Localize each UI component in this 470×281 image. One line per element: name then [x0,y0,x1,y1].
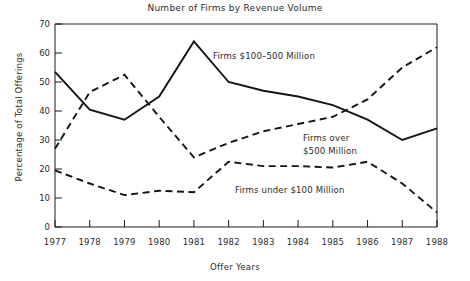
series-label-over-500-million-line2: $500 Million [303,146,357,156]
y-tick-label: 20 [39,164,50,174]
x-tick-label: 1983 [252,237,274,247]
x-tick-label: 1982 [217,237,239,247]
y-tick-label: 50 [39,77,50,87]
x-tick-label: 1984 [287,237,309,247]
y-tick-label: 60 [39,48,50,58]
x-tick-label: 1979 [113,237,135,247]
x-tick-label: 1980 [148,237,170,247]
data-line-series-2 [55,47,437,157]
series-label-over-500-million-line1: Firms over [303,133,350,143]
x-tick-label: 1988 [426,237,448,247]
x-tick-label: 1987 [391,237,413,247]
x-tick-label: 1977 [44,237,66,247]
y-tick-label: 40 [39,106,50,116]
y-tick-label: 70 [39,19,50,29]
series-label-100-500-million: Firms $100–500 Million [213,51,315,61]
x-tick-label: 1981 [183,237,205,247]
x-axis-label: Offer Years [0,262,470,272]
y-tick-label: 0 [45,222,50,232]
x-axis-tick-labels: 1977197819791980198119821983198419851986… [44,237,448,247]
y-tick-label: 30 [39,135,50,145]
x-axis-ticks [55,220,437,227]
x-tick-label: 1978 [79,237,101,247]
series-label-under-100-million: Firms under $100 Million [235,185,345,195]
plot-area: 70 60 50 40 30 20 10 0 19771978197919801… [0,0,470,281]
y-axis-ticks [55,24,62,227]
y-axis-tick-labels: 70 60 50 40 30 20 10 0 [39,19,50,232]
y-tick-label: 10 [39,193,50,203]
x-tick-label: 1986 [356,237,378,247]
x-tick-label: 1985 [322,237,344,247]
chart-figure: Number of Firms by Revenue Volume Percen… [0,0,470,281]
